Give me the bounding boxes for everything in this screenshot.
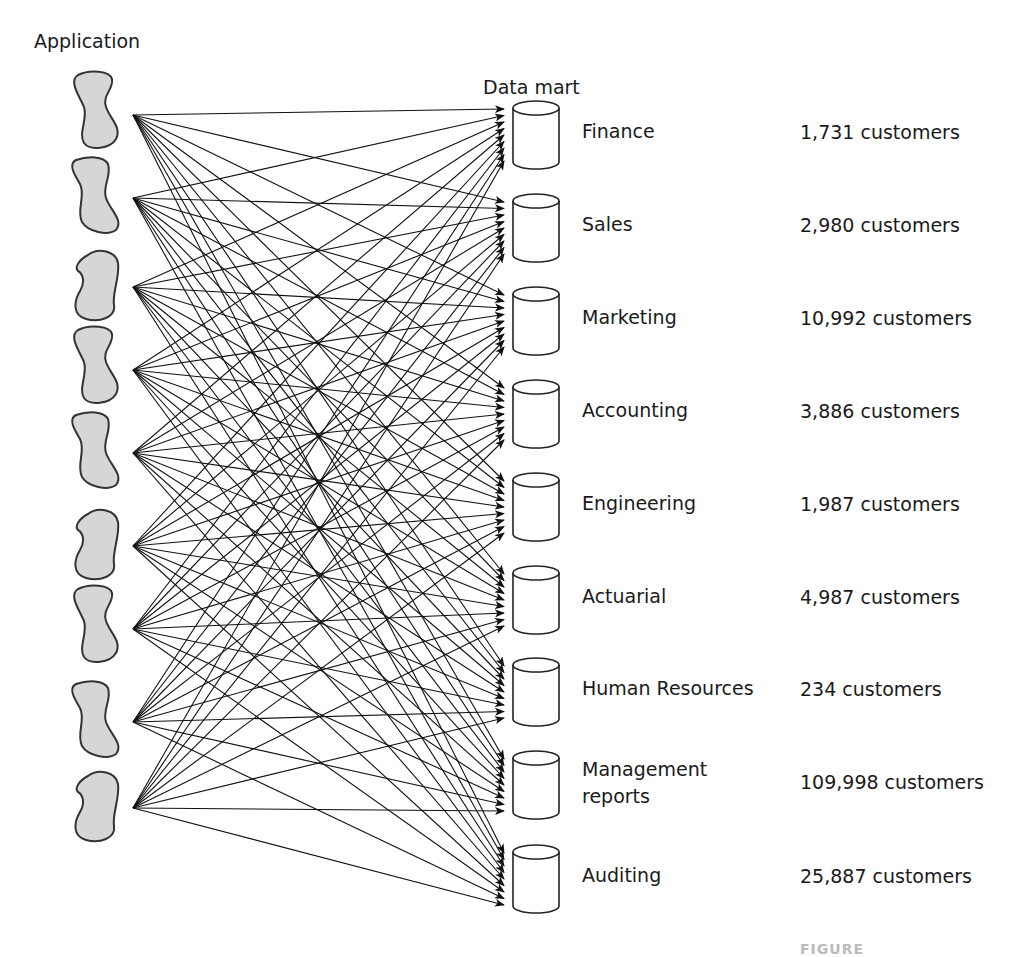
connection-arrow [133,109,504,115]
database-cylinder-icon [513,845,559,913]
connection-arrow [133,161,504,808]
connection-arrow [133,453,504,692]
connection-arrow [133,440,504,808]
connection-arrow [133,629,504,705]
connection-lines [133,109,504,905]
database-cylinder-icon [513,380,559,448]
connection-arrow [133,546,504,699]
database-cylinder-icon [513,101,559,169]
data-mart-name: Managementreports [582,756,707,810]
connection-arrow [133,155,504,723]
database-cylinder-icon [513,287,559,355]
data-mart-name: Accounting [582,397,688,424]
application-blob-icon [75,251,118,320]
customer-count: 3,886 customers [800,400,960,422]
customer-count: 234 customers [800,678,942,700]
application-blob-icon [72,681,118,756]
connection-arrow [133,514,504,547]
connection-arrow [133,718,504,808]
customer-count: 25,887 customers [800,865,972,887]
database-cylinder-icon [513,566,559,634]
connection-arrow [133,453,504,879]
data-mart-cylinders [513,101,559,913]
application-blob-icon [74,72,118,148]
application-blob-icon [72,412,118,487]
database-cylinder-icon [513,194,559,262]
customer-count: 2,980 customers [800,214,960,236]
connection-arrow [133,241,504,629]
connection-arrow [133,135,504,453]
database-cylinder-icon [513,658,559,726]
connection-arrow [133,808,504,905]
connection-arrow [133,427,504,629]
application-blob-icon [74,327,118,403]
customer-count: 4,987 customers [800,586,960,608]
connection-arrow [133,148,504,629]
figure-caption: FIGURE [800,941,864,957]
customer-count: 1,731 customers [800,121,960,143]
connection-arrow [133,315,504,371]
data-mart-name: Sales [582,211,633,238]
application-blob-icon [74,586,118,662]
data-mart-name: Auditing [582,862,661,889]
application-blobs [72,72,118,842]
customer-count: 10,992 customers [800,307,972,329]
connection-arrow [133,129,504,371]
data-mart-name: Human Resources [582,675,754,702]
application-blob-icon [72,157,118,232]
database-cylinder-icon [513,751,559,819]
customer-count: 109,998 customers [800,771,984,793]
application-blob-icon [75,510,118,579]
application-blob-icon [75,772,118,841]
connection-arrow [133,453,504,785]
data-mart-name: Engineering [582,490,696,517]
connection-arrow [133,254,504,808]
connection-arrow [133,198,504,209]
data-mart-name: Actuarial [582,583,666,610]
data-mart-name: Marketing [582,304,677,331]
customer-count: 1,987 customers [800,493,960,515]
data-mart-name: Finance [582,118,655,145]
database-cylinder-icon [513,473,559,541]
